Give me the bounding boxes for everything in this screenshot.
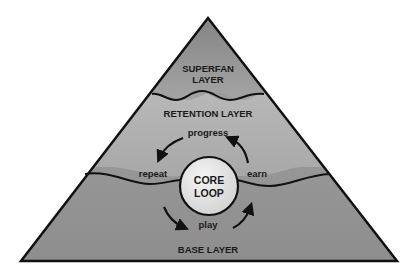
- core-label-line2: LOOP: [194, 187, 224, 199]
- loop-step-progress: progress: [188, 127, 229, 138]
- core-label-line1: CORE: [194, 174, 224, 186]
- superfan-label-line2: LAYER: [192, 74, 223, 85]
- core-loop-circle: [180, 157, 238, 215]
- loop-step-earn: earn: [247, 168, 267, 179]
- superfan-label-line1: SUPERFAN: [182, 63, 234, 74]
- retention-label: RETENTION LAYER: [164, 108, 253, 119]
- superfan-layer-fill: [0, 0, 415, 100]
- base-label: BASE LAYER: [178, 244, 238, 255]
- loop-step-repeat: repeat: [139, 168, 168, 179]
- loop-step-play: play: [198, 219, 218, 230]
- pyramid-diagram: SUPERFAN LAYER RETENTION LAYER BASE LAYE…: [0, 0, 415, 278]
